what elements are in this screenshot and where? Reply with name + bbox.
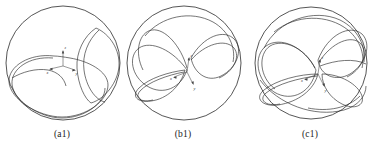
geodesic-curve bbox=[138, 30, 187, 70]
sphere-diagram-c1: z x y bbox=[248, 0, 372, 130]
y-axis-label: y bbox=[75, 71, 78, 76]
x-axis-arrowhead-icon bbox=[49, 68, 53, 71]
geodesic-curve bbox=[138, 72, 184, 101]
x-axis-label: x bbox=[300, 78, 303, 83]
geodesic-curve bbox=[191, 34, 239, 78]
z-axis-label: z bbox=[64, 45, 67, 50]
geodesic-curve bbox=[84, 30, 105, 102]
geodesic-curve bbox=[320, 60, 366, 66]
geodesic-curve bbox=[145, 16, 234, 62]
sphere-diagram-b1: z x y bbox=[121, 0, 245, 130]
z-axis-label: z bbox=[321, 55, 324, 60]
geodesic-curve bbox=[12, 69, 66, 86]
sphere-outline-icon bbox=[127, 6, 241, 120]
z-axis-label: z bbox=[190, 53, 193, 58]
y-axis-label: y bbox=[324, 88, 327, 93]
geodesic-curve bbox=[308, 96, 360, 110]
y-axis-label: y bbox=[193, 86, 196, 91]
figure-panel-c1: z x y (c1) bbox=[248, 0, 372, 157]
panel-caption-b1: (b1) bbox=[121, 129, 245, 139]
geodesic-curve bbox=[322, 74, 362, 107]
panel-caption-a1: (a1) bbox=[0, 129, 124, 139]
sphere-diagram-a1: z x y bbox=[0, 0, 124, 130]
sphere-outline-icon bbox=[255, 7, 367, 119]
figure-panel-b1: z x y (b1) bbox=[121, 0, 245, 157]
z-axis-arrowhead-icon bbox=[62, 50, 64, 53]
x-axis-label: x bbox=[169, 76, 172, 81]
figure-panel-a1: z x y (a1) bbox=[0, 0, 124, 157]
figure-panel-row: z x y (a1) bbox=[0, 0, 372, 157]
panel-caption-c1: (c1) bbox=[248, 129, 372, 139]
x-axis-label: x bbox=[46, 70, 49, 75]
geodesic-curve bbox=[135, 70, 185, 101]
z-axis-arrowhead-icon bbox=[188, 57, 190, 61]
